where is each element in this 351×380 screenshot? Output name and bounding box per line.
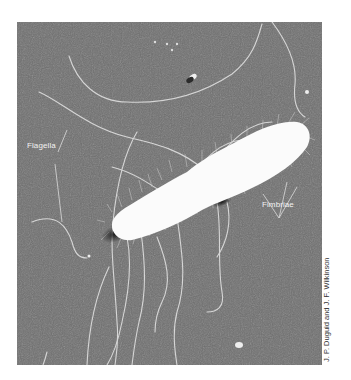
fimbriae-label: Fimbriae (262, 200, 294, 209)
bacterium-illustration (17, 22, 322, 365)
electron-micrograph: Flagella Fimbriae (17, 22, 322, 365)
flagella-label: Flagella (27, 141, 56, 150)
photo-credit: J. P. Duguid and J. F. Wilkinson (322, 258, 331, 363)
